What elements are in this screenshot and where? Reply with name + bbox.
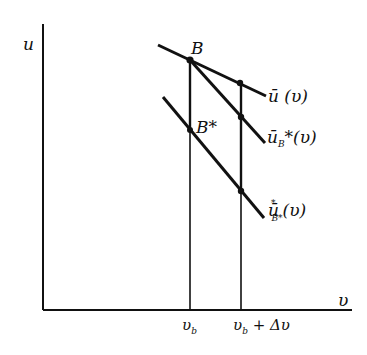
tick-vb-plus-dv-label: υb + Δυ bbox=[233, 316, 290, 336]
curve2-main: ū bbox=[267, 127, 278, 147]
tick2-suffix: + Δυ bbox=[248, 316, 290, 334]
tick1-sub: b bbox=[191, 326, 197, 336]
tick-vb-label: υb bbox=[182, 316, 197, 336]
curve-u-bar bbox=[158, 45, 266, 96]
point-low-right bbox=[238, 188, 244, 194]
point-top-right bbox=[237, 80, 243, 86]
point-mid-right bbox=[238, 114, 244, 120]
curve2-suffix: *(υ) bbox=[285, 127, 317, 147]
curve3-suffix: (υ) bbox=[283, 200, 307, 220]
curve-u-bar-star-B-star-label: ū*B*(υ) bbox=[268, 198, 306, 223]
point-B-star-label: B* bbox=[195, 117, 217, 137]
point-B-label: B bbox=[190, 38, 204, 58]
tick2-main: υ bbox=[233, 316, 242, 334]
y-axis-label: u bbox=[23, 34, 34, 54]
curve1-text: ū (υ) bbox=[268, 86, 308, 106]
curve-u-bar-star-B-star bbox=[163, 97, 264, 218]
diagram-figure: u υ B B* ū (υ) ūB*(υ) ū*B*(υ) υb υb + Δυ bbox=[0, 0, 367, 355]
curve3-sub: B* bbox=[270, 213, 283, 223]
diagram-canvas: u υ B B* ū (υ) ūB*(υ) ū*B*(υ) υb υb + Δυ bbox=[0, 0, 367, 355]
point-B-star bbox=[187, 127, 193, 133]
x-axis-label: υ bbox=[338, 290, 348, 310]
curve-u-bar-label: ū (υ) bbox=[268, 86, 308, 106]
curve-u-bar-B-star-label: ūB*(υ) bbox=[267, 127, 317, 149]
tick1-main: υ bbox=[182, 316, 191, 334]
curve3-sup: * bbox=[271, 198, 276, 208]
